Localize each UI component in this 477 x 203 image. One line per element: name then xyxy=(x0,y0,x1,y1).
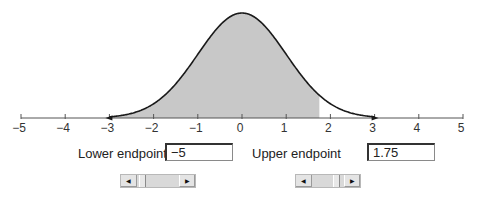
x-tick-label: 4 xyxy=(405,121,429,135)
scroll-right-arrow-icon: ▶ xyxy=(350,178,355,184)
upper-scroll-right-button[interactable]: ▶ xyxy=(344,175,360,187)
upper-scroll-left-button[interactable]: ◀ xyxy=(296,175,312,187)
x-tick-label: −3 xyxy=(95,121,119,135)
x-tick-label: −5 xyxy=(7,121,31,135)
x-tick-label: −1 xyxy=(184,121,208,135)
upper-endpoint-scrollbar[interactable]: ◀ ▶ xyxy=(295,174,361,188)
x-tick-label: −4 xyxy=(51,121,75,135)
x-tick-label: −2 xyxy=(140,121,164,135)
scroll-left-arrow-icon: ◀ xyxy=(301,178,306,184)
x-tick-label: 5 xyxy=(449,121,473,135)
x-tick-label: 0 xyxy=(228,121,252,135)
lower-scroll-left-button[interactable]: ◀ xyxy=(121,175,137,187)
scroll-right-arrow-icon: ▶ xyxy=(185,178,190,184)
lower-endpoint-label: Lower endpoint xyxy=(78,146,167,161)
x-tick-label: 3 xyxy=(361,121,385,135)
scroll-left-arrow-icon: ◀ xyxy=(126,178,131,184)
lower-scroll-thumb[interactable] xyxy=(139,175,146,187)
upper-scroll-thumb[interactable] xyxy=(333,175,340,187)
normal-curve-plot xyxy=(0,0,477,140)
lower-endpoint-scrollbar[interactable]: ◀ ▶ xyxy=(120,174,196,188)
upper-endpoint-input[interactable] xyxy=(367,143,435,161)
x-tick-label: 2 xyxy=(316,121,340,135)
lower-endpoint-input[interactable] xyxy=(165,143,233,161)
shaded-area xyxy=(109,13,319,118)
upper-endpoint-label: Upper endpoint xyxy=(252,146,341,161)
lower-scroll-right-button[interactable]: ▶ xyxy=(179,175,195,187)
x-tick-label: 1 xyxy=(272,121,296,135)
